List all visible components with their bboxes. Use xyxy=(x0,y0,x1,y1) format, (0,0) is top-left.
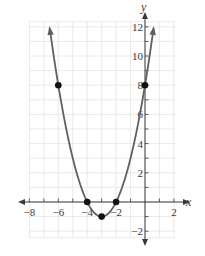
x-axis-left-arrow-icon xyxy=(18,199,25,205)
data-point xyxy=(113,199,120,206)
y-axis-label: y xyxy=(140,0,147,14)
x-tick-label: 2 xyxy=(171,206,177,218)
curve-left-arrow-icon xyxy=(47,26,53,35)
data-point xyxy=(142,82,149,89)
x-tick-label: −8 xyxy=(24,206,36,218)
parabola-chart: −8−6−4−22 −224681012 x y xyxy=(0,0,205,256)
data-point xyxy=(98,213,105,220)
y-tick-label: 10 xyxy=(132,50,144,62)
data-point xyxy=(84,199,91,206)
y-tick-label: 2 xyxy=(138,167,144,179)
y-tick-label: −2 xyxy=(131,225,143,237)
y-axis-bottom-arrow-icon xyxy=(142,239,148,246)
x-tick-label: −6 xyxy=(52,206,64,218)
x-axis-label: x xyxy=(185,195,192,209)
x-tick-label: −4 xyxy=(81,206,93,218)
data-point xyxy=(55,82,62,89)
curve-right-arrow-icon xyxy=(149,26,155,35)
grid-lines xyxy=(29,22,175,238)
y-tick-label: 12 xyxy=(132,21,143,33)
y-tick-label: 4 xyxy=(138,138,144,150)
